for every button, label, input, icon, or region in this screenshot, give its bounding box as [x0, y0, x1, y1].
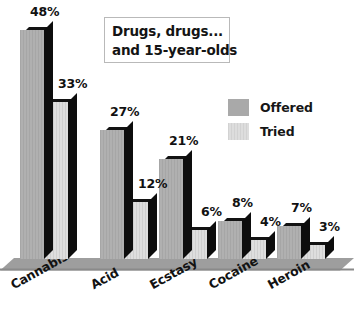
bar-cannabis-offered [20, 21, 53, 259]
value-label-acid-tried: 12% [138, 176, 167, 191]
bar-chart-figure: 48%33%27%12%21%6%8%4%7%3% CannabisAcidEc… [0, 0, 354, 319]
bar-side-face [148, 193, 157, 259]
value-label-cannabis-tried: 33% [58, 76, 87, 91]
value-label-cannabis-offered: 48% [30, 4, 59, 19]
chart-title-line-1: Drugs, drugs... [112, 22, 223, 41]
value-label-heroin-offered: 7% [291, 200, 312, 215]
bar-front-face [277, 226, 301, 259]
value-label-acid-offered: 27% [110, 104, 139, 119]
bar-side-face [242, 212, 251, 259]
bar-side-face [301, 217, 310, 259]
chart-title-box: Drugs, drugs... and 15-year-olds [104, 17, 230, 63]
value-label-cocaine-offered: 8% [232, 195, 253, 210]
bar-side-face [68, 93, 77, 259]
bar-front-face [159, 159, 183, 259]
value-label-ecstasy-offered: 21% [169, 133, 198, 148]
legend-swatch-tried-icon [228, 123, 249, 140]
value-label-heroin-tried: 3% [319, 219, 340, 234]
chart-title-line-2: and 15-year-olds [112, 41, 223, 60]
bar-ecstasy-offered [159, 150, 192, 259]
legend-label-tried: Tried [260, 124, 295, 139]
value-label-ecstasy-tried: 6% [201, 204, 222, 219]
bar-front-face [218, 221, 242, 259]
legend-item-tried: Tried [228, 122, 313, 141]
legend-label-offered: Offered [260, 100, 313, 115]
bar-side-face [325, 236, 334, 259]
bar-cocaine-offered [218, 212, 251, 259]
bar-side-face [266, 231, 275, 259]
bar-heroin-offered [277, 217, 310, 259]
bar-side-face [124, 121, 133, 259]
legend-item-offered: Offered [228, 98, 313, 117]
bar-front-face [100, 130, 124, 259]
bar-side-face [44, 21, 53, 259]
value-label-cocaine-tried: 4% [260, 214, 281, 229]
bar-side-face [183, 150, 192, 259]
bar-acid-offered [100, 121, 133, 259]
bar-side-face [207, 221, 216, 259]
legend-swatch-offered-icon [228, 99, 249, 116]
bar-front-face [20, 30, 44, 259]
chart-legend: Offered Tried [228, 98, 313, 146]
